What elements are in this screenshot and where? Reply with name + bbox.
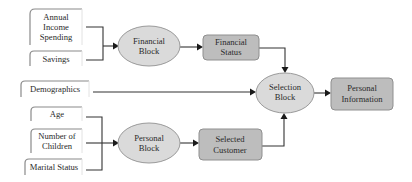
- node-label: Spending: [40, 32, 73, 42]
- output-node-selected-customer: Selected Customer: [199, 129, 262, 160]
- input-node-age: Age: [31, 107, 82, 121]
- node-label: Information: [341, 94, 383, 104]
- node-label: Savings: [42, 54, 70, 64]
- node-label: Block: [275, 92, 296, 102]
- edge-customer-to-selection: [262, 119, 284, 146]
- node-label: Demographics: [30, 84, 81, 94]
- input-node-annual-income-spending: Annual Income Spending: [30, 9, 82, 45]
- node-label: Annual: [43, 12, 69, 22]
- customer-selection-flow-diagram: Annual Income Spending Savings Demograph…: [0, 0, 412, 182]
- node-label: Selection: [269, 82, 302, 92]
- arrowhead-icon: [325, 90, 331, 97]
- process-node-selection-block: Selection Block: [256, 73, 314, 113]
- input-node-demographics: Demographics: [21, 81, 89, 97]
- node-label: Number of: [38, 131, 76, 141]
- node-label: Block: [139, 143, 160, 153]
- arrowhead-icon: [282, 67, 289, 73]
- node-label: Age: [50, 109, 65, 119]
- node-label: Personal: [347, 83, 377, 93]
- output-node-financial-status: Financial Status: [203, 35, 259, 60]
- node-label: Customer: [213, 145, 247, 155]
- input-node-savings: Savings: [30, 51, 82, 66]
- node-label: Marital Status: [30, 162, 79, 172]
- process-node-financial-block: Financial Block: [118, 26, 180, 66]
- node-label: Financial: [215, 37, 248, 47]
- node-label: Status: [220, 47, 242, 57]
- input-node-marital-status: Marital Status: [25, 159, 82, 175]
- node-label: Personal: [134, 133, 164, 143]
- arrowhead-icon: [193, 140, 199, 147]
- node-label: Income: [43, 22, 69, 32]
- input-node-number-of-children: Number of Children: [31, 129, 82, 153]
- node-label: Block: [139, 46, 160, 56]
- node-label: Children: [42, 141, 73, 151]
- edge-income-bracket: [86, 27, 103, 60]
- process-node-personal-block: Personal Block: [118, 123, 180, 163]
- output-node-personal-information: Personal Information: [331, 78, 393, 110]
- node-label: Selected: [215, 134, 245, 144]
- arrowhead-icon: [281, 113, 288, 119]
- arrowhead-icon: [250, 89, 256, 96]
- edge-financial-status-to-selection: [259, 48, 285, 67]
- arrowhead-icon: [197, 44, 203, 51]
- node-label: Financial: [133, 36, 166, 46]
